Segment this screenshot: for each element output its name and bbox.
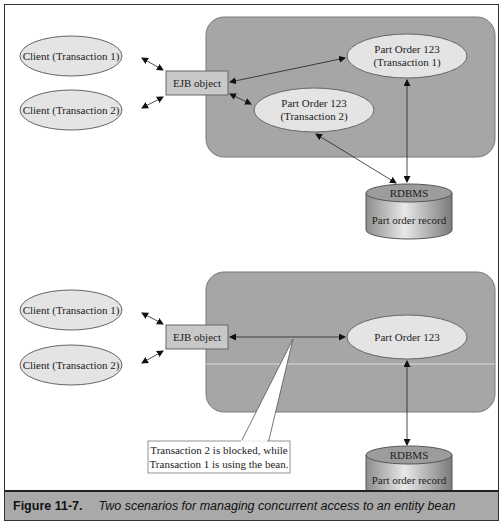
client-2-bottom: Client (Transaction 2) bbox=[20, 345, 122, 385]
svg-text:Client (Transaction 1): Client (Transaction 1) bbox=[23, 50, 120, 63]
svg-text:(Transaction 2): (Transaction 2) bbox=[280, 110, 347, 123]
figure-caption: Figure 11-7. Two scenarios for managing … bbox=[4, 490, 499, 521]
instance-bottom: Part Order 123 bbox=[347, 315, 467, 359]
connector-client1-ejb bbox=[142, 58, 163, 70]
figure-number: Figure 11-7. bbox=[13, 499, 82, 513]
client-2-top: Client (Transaction 2) bbox=[20, 90, 122, 130]
svg-text:Transaction 2 is blocked, whil: Transaction 2 is blocked, while bbox=[150, 444, 287, 456]
svg-text:Client (Transaction 1): Client (Transaction 1) bbox=[23, 304, 120, 317]
database-top: RDBMS Part order record bbox=[366, 184, 452, 239]
top-diagram: Client (Transaction 1) Client (Transacti… bbox=[20, 17, 495, 239]
svg-text:Transaction 1 is using the bea: Transaction 1 is using the bean. bbox=[150, 458, 289, 470]
svg-text:Client (Transaction 2): Client (Transaction 2) bbox=[23, 104, 120, 117]
diagram-canvas: Client (Transaction 1) Client (Transacti… bbox=[0, 0, 503, 525]
instance-2-top: Part Order 123 (Transaction 2) bbox=[254, 88, 374, 132]
svg-text:RDBMS: RDBMS bbox=[390, 449, 429, 461]
svg-text:Part order record: Part order record bbox=[372, 474, 447, 486]
svg-text:EJB object: EJB object bbox=[173, 331, 221, 343]
svg-text:(Transaction 1): (Transaction 1) bbox=[373, 56, 440, 69]
ejb-object-bottom: EJB object bbox=[166, 325, 228, 349]
svg-text:Part Order 123: Part Order 123 bbox=[281, 97, 347, 109]
caption-text: Two scenarios for managing concurrent ac… bbox=[98, 499, 455, 513]
container-top bbox=[206, 17, 495, 157]
client-1-top: Client (Transaction 1) bbox=[20, 36, 122, 76]
svg-text:Part Order 123: Part Order 123 bbox=[374, 331, 440, 343]
svg-text:Part Order 123: Part Order 123 bbox=[374, 43, 440, 55]
client-1-bottom: Client (Transaction 1) bbox=[20, 290, 122, 330]
connector-client2-ejb bbox=[142, 97, 163, 108]
svg-text:RDBMS: RDBMS bbox=[390, 187, 429, 199]
connector-client1-ejb-bottom bbox=[142, 313, 163, 324]
svg-text:Part order record: Part order record bbox=[372, 214, 447, 226]
connector-client2-ejb-bottom bbox=[142, 351, 163, 363]
bottom-diagram: Client (Transaction 1) Client (Transacti… bbox=[20, 272, 495, 501]
ejb-object-top: EJB object bbox=[166, 71, 228, 95]
svg-text:EJB object: EJB object bbox=[173, 77, 221, 89]
instance-1-top: Part Order 123 (Transaction 1) bbox=[347, 34, 467, 78]
svg-text:Client (Transaction 2): Client (Transaction 2) bbox=[23, 359, 120, 372]
